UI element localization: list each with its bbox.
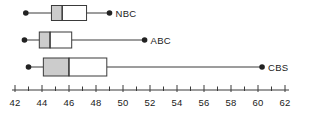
axis-tick-label: 60 <box>253 97 264 108</box>
axis-tick-label: 44 <box>37 97 48 108</box>
series-layer: NBCABCCBS <box>22 6 289 77</box>
box-upper-quartile <box>69 58 107 76</box>
axis-tick-label: 48 <box>91 97 102 108</box>
box-lower-quartile <box>39 32 50 48</box>
max-marker-dot <box>259 64 265 70</box>
axis-tick-label: 46 <box>64 97 75 108</box>
max-marker-dot <box>142 37 148 43</box>
min-marker-dot <box>22 37 28 43</box>
boxplot-series-cbs: CBS <box>26 58 289 76</box>
box-lower-quartile <box>51 6 62 21</box>
box-lower-quartile <box>43 58 69 76</box>
axis-tick-label: 56 <box>199 97 210 108</box>
series-label-abc: ABC <box>151 35 171 46</box>
series-label-nbc: NBC <box>116 8 137 19</box>
axis-tick-label: 42 <box>10 97 21 108</box>
boxplot-chart: NBCABCCBS 4244464850525456586062 <box>0 0 311 115</box>
axis-tick-label: 52 <box>145 97 156 108</box>
box-upper-quartile <box>62 6 86 21</box>
max-marker-dot <box>107 10 113 16</box>
min-marker-dot <box>23 10 29 16</box>
axis-tick-label: 50 <box>118 97 129 108</box>
series-label-cbs: CBS <box>268 62 288 73</box>
boxplot-canvas: NBCABCCBS 4244464850525456586062 <box>0 0 311 115</box>
axis-tick-label: 54 <box>172 97 183 108</box>
boxplot-series-abc: ABC <box>22 32 171 48</box>
axis-tick-label: 58 <box>226 97 237 108</box>
axis-tick-label: 62 <box>280 97 291 108</box>
box-upper-quartile <box>50 32 72 48</box>
x-axis: 4244464850525456586062 <box>10 85 291 108</box>
min-marker-dot <box>26 64 32 70</box>
boxplot-series-nbc: NBC <box>23 6 136 21</box>
